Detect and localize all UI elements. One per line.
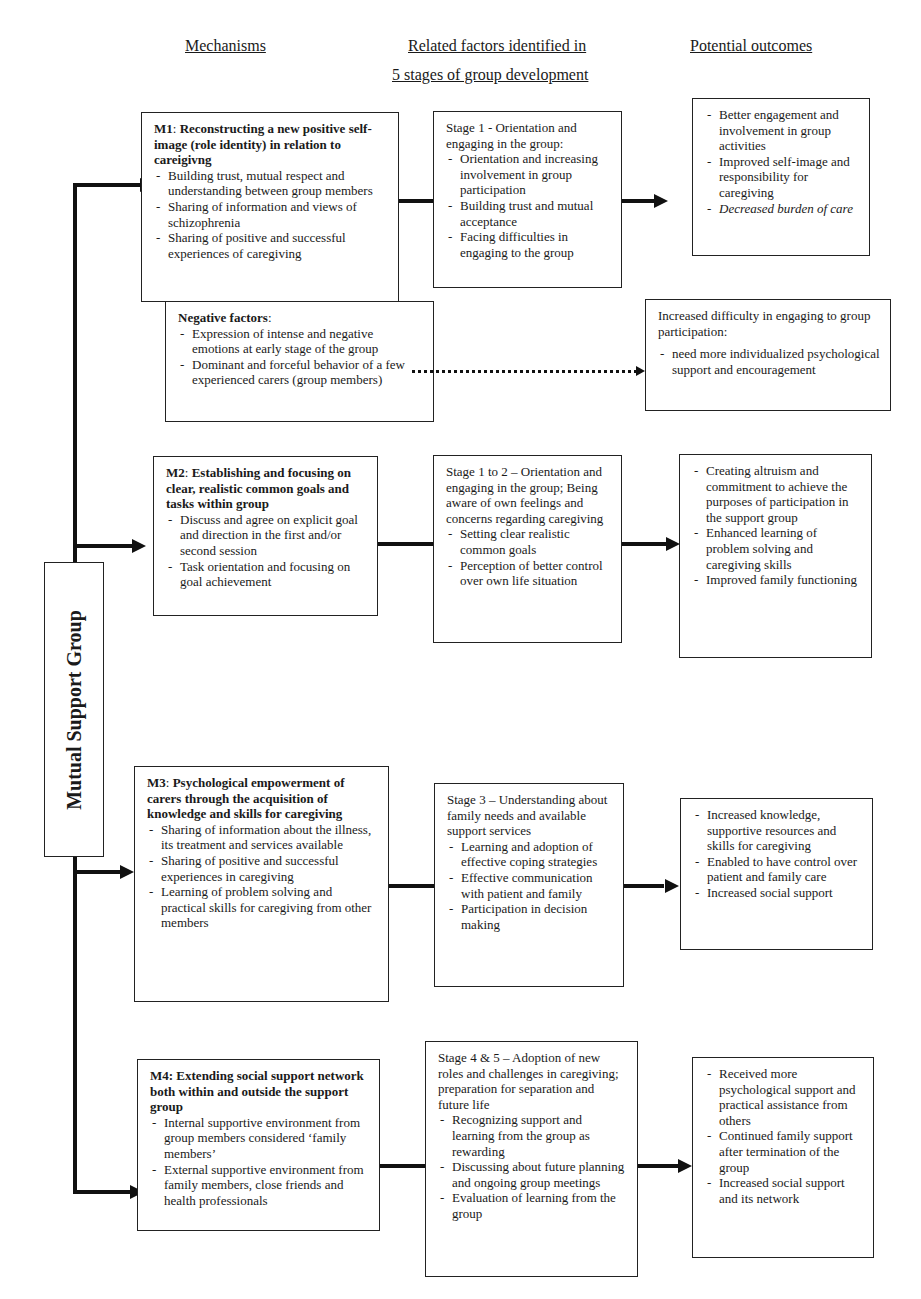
mechanism-box-m3: M3: Psychological empowerment of carers … bbox=[134, 766, 389, 1002]
list-item: Sharing of positive and successful exper… bbox=[154, 230, 388, 261]
arrow-m2-icon bbox=[132, 539, 146, 553]
stage-lead: Stage 1 - Orientation and engaging in th… bbox=[446, 120, 611, 151]
list-item: Dominant and forceful behavior of a few … bbox=[178, 357, 423, 388]
stage-box-1: Stage 1 - Orientation and engaging in th… bbox=[433, 111, 622, 288]
connector-m1-stage bbox=[399, 199, 434, 203]
arrow-m3-icon bbox=[120, 865, 134, 879]
root-mutual-support-group: Mutual Support Group bbox=[44, 562, 104, 857]
list-item: Creating altruism and commitment to achi… bbox=[692, 463, 861, 525]
list-item: Improved self-image and responsibility f… bbox=[705, 154, 859, 201]
list-item: Recognizing support and learning from th… bbox=[438, 1112, 627, 1159]
outcome-box-4: Received more psychological support and … bbox=[692, 1057, 874, 1258]
mechanism-title: Reconstructing a new positive self-image… bbox=[154, 121, 372, 167]
stage-box-3: Stage 3 – Understanding about family nee… bbox=[434, 783, 624, 987]
dotted-arrow-icon bbox=[636, 366, 645, 376]
list-item: External supportive environment from fam… bbox=[150, 1162, 369, 1209]
list-item: Discussing about future planning and ong… bbox=[438, 1159, 627, 1190]
list-item: Evaluation of learning from the group bbox=[438, 1190, 627, 1221]
negative-title: Negative factors bbox=[178, 310, 268, 325]
connector-stage3-outcome bbox=[624, 884, 664, 888]
list-item: Enhanced learning of problem solving and… bbox=[692, 525, 861, 572]
stage-box-4-5: Stage 4 & 5 – Adoption of new roles and … bbox=[425, 1041, 638, 1277]
list-item: Internal supportive environment from gro… bbox=[150, 1115, 369, 1162]
header-related-factors-line2: 5 stages of group development bbox=[392, 66, 588, 84]
list-item: Learning of problem solving and practica… bbox=[147, 884, 378, 931]
connector-m3-stage bbox=[389, 884, 435, 888]
root-label: Mutual Support Group bbox=[63, 610, 86, 810]
list-item: Increased social support and its network bbox=[705, 1175, 863, 1206]
list-item: Received more psychological support and … bbox=[705, 1066, 863, 1128]
list-item: Sharing of positive and successful exper… bbox=[147, 853, 378, 884]
outcome-box-2: Creating altruism and commitment to achi… bbox=[679, 454, 872, 658]
branch-m2-line bbox=[73, 544, 141, 548]
stage-lead: Stage 1 to 2 – Orientation and engaging … bbox=[446, 464, 611, 526]
list-item: Sharing of information and views of schi… bbox=[154, 199, 388, 230]
stage-lead: Stage 4 & 5 – Adoption of new roles and … bbox=[438, 1050, 627, 1112]
negative-outcome-box: Increased difficulty in engaging to grou… bbox=[645, 299, 891, 411]
list-item: Building trust and mutual acceptance bbox=[446, 198, 611, 229]
connector-stage2-outcome bbox=[622, 542, 667, 546]
header-potential-outcomes: Potential outcomes bbox=[690, 37, 812, 55]
stage-box-1-2: Stage 1 to 2 – Orientation and engaging … bbox=[433, 455, 622, 643]
mechanism-code: M1 bbox=[154, 121, 173, 136]
dotted-connector-line bbox=[412, 370, 637, 373]
negative-factors-box: Negative factors: Expression of intense … bbox=[165, 301, 434, 422]
list-item: Decreased burden of care bbox=[705, 201, 859, 217]
mechanism-code: M2 bbox=[166, 465, 185, 480]
list-item: Setting clear realistic common goals bbox=[446, 526, 611, 557]
list-item: Continued family support after terminati… bbox=[705, 1128, 863, 1175]
list-item: need more individualized psychological s… bbox=[658, 346, 880, 377]
mechanism-code: M3 bbox=[147, 775, 166, 790]
list-item: Improved family functioning bbox=[692, 572, 861, 588]
arrow-outcome2-icon bbox=[666, 537, 680, 551]
connector-m4-stage bbox=[380, 1164, 426, 1168]
arrow-outcome1-icon bbox=[654, 194, 668, 208]
list-item: Task orientation and focusing on goal ac… bbox=[166, 559, 367, 590]
mechanism-title: Extending social support network both wi… bbox=[150, 1068, 364, 1114]
list-item: Better engagement and involvement in gro… bbox=[705, 107, 859, 154]
stage-lead: Stage 3 – Understanding about family nee… bbox=[447, 792, 613, 839]
outcome-box-1: Better engagement and involvement in gro… bbox=[692, 98, 870, 256]
list-item: Increased social support bbox=[693, 885, 862, 901]
list-item: Facing difficulties in engaging to the g… bbox=[446, 229, 611, 260]
mechanism-box-m4: M4: Extending social support network bot… bbox=[137, 1059, 380, 1231]
arrow-outcome4-icon bbox=[678, 1159, 692, 1173]
header-mechanisms: Mechanisms bbox=[185, 37, 266, 55]
mechanism-code: M4: bbox=[150, 1068, 173, 1083]
arrow-outcome3-icon bbox=[665, 879, 679, 893]
list-item: Effective communication with patient and… bbox=[447, 870, 613, 901]
mechanism-box-m2: M2: Establishing and focusing on clear, … bbox=[153, 456, 378, 616]
list-item: Expression of intense and negative emoti… bbox=[178, 326, 423, 357]
list-item: Participation in decision making bbox=[447, 901, 613, 932]
list-item: Increased knowledge, supportive resource… bbox=[693, 807, 862, 854]
list-item: Perception of better control over own li… bbox=[446, 558, 611, 589]
outcome-box-3: Increased knowledge, supportive resource… bbox=[680, 798, 873, 950]
list-item: Sharing of information about the illness… bbox=[147, 822, 378, 853]
list-item: Enabled to have control over patient and… bbox=[693, 854, 862, 885]
mechanism-box-m1: M1: Reconstructing a new positive self-i… bbox=[141, 112, 399, 302]
connector-m2-stage bbox=[378, 542, 434, 546]
list-item: Orientation and increasing involvement i… bbox=[446, 151, 611, 198]
negative-outcome-lead: Increased difficulty in engaging to grou… bbox=[658, 308, 880, 339]
list-item: Learning and adoption of effective copin… bbox=[447, 839, 613, 870]
header-related-factors-line1: Related factors identified in bbox=[408, 37, 586, 55]
connector-stage45-outcome bbox=[638, 1164, 678, 1168]
list-item: Building trust, mutual respect and under… bbox=[154, 168, 388, 199]
list-item: Discuss and agree on explicit goal and d… bbox=[166, 512, 367, 559]
mechanism-title: Establishing and focusing on clear, real… bbox=[166, 465, 351, 511]
mechanism-title: Psychological empowerment of carers thro… bbox=[147, 775, 345, 821]
